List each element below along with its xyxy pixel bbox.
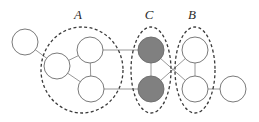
graph-node xyxy=(138,37,164,63)
graph-node xyxy=(182,37,208,63)
graph-node xyxy=(220,76,246,102)
diagram-canvas: ACB xyxy=(0,0,259,122)
graph-node xyxy=(78,76,104,102)
graph-edge xyxy=(68,73,80,81)
graph-edge xyxy=(35,50,46,58)
graph-node xyxy=(182,76,208,102)
graph-node xyxy=(12,29,38,55)
node-layer xyxy=(12,29,246,102)
graph-node xyxy=(138,76,164,102)
label-c: C xyxy=(145,7,154,22)
label-b: B xyxy=(188,7,196,22)
graph-node xyxy=(77,37,103,63)
group-label-layer: ACB xyxy=(73,7,196,22)
graph-node xyxy=(44,53,70,79)
graph-edge xyxy=(69,56,79,61)
label-a: A xyxy=(73,7,82,22)
graph-diagram: ACB xyxy=(0,0,259,122)
